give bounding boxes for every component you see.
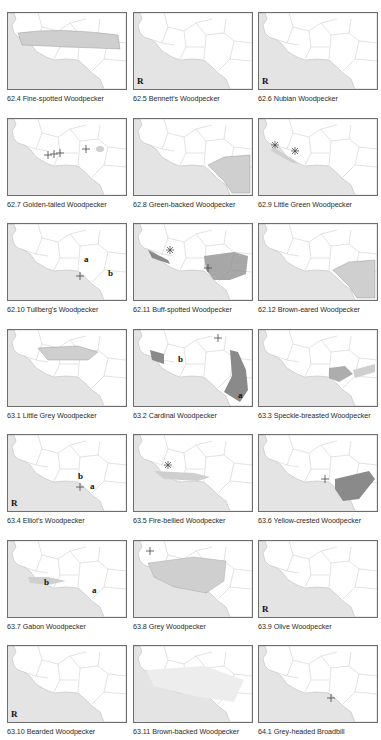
range-map — [7, 329, 127, 407]
range-map-panel: ba63.2 Cardinal Woodpecker — [133, 329, 253, 431]
species-caption: 63.3 Speckle-breasted Woodpecker — [258, 411, 371, 420]
resident-marker: R — [137, 76, 144, 86]
subspecies-label: a — [238, 390, 243, 400]
range-map-panel: R63.9 Olive Woodpecker — [258, 540, 378, 642]
range-map-panel: 63.11 Brown-backed Woodpecker — [133, 645, 253, 740]
range-map-panel: R63.10 Bearded Woodpecker — [7, 645, 127, 740]
range-map-panel: R62.5 Bennett's Woodpecker — [133, 12, 253, 114]
species-caption: 62.8 Green-backed Woodpecker — [133, 200, 235, 209]
range-map-panel: 63.6 Yellow-crested Woodpecker — [258, 434, 378, 536]
resident-marker: R — [11, 498, 18, 508]
range-map — [133, 434, 253, 512]
species-caption: 63.4 Elliot's Woodpecker — [7, 516, 85, 525]
species-caption: 62.5 Bennett's Woodpecker — [133, 94, 220, 103]
range-map-panel: 63.1 Little Grey Woodpecker — [7, 329, 127, 431]
species-caption: 64.1 Grey-headed Broadbill — [258, 727, 345, 736]
species-caption: 62.4 Fine-spotted Woodpecker — [7, 94, 104, 103]
species-caption: 63.2 Cardinal Woodpecker — [133, 411, 217, 420]
range-map — [7, 118, 127, 196]
range-map-panel: ba63.7 Gabon Woodpecker — [7, 540, 127, 642]
range-map — [133, 540, 253, 618]
range-map-panel: 62.4 Fine-spotted Woodpecker — [7, 12, 127, 114]
range-map: R — [133, 12, 253, 90]
range-map — [7, 12, 127, 90]
range-map: R — [258, 540, 378, 618]
range-map: R — [7, 645, 127, 723]
range-map — [258, 329, 378, 407]
range-map-panel: 62.9 Little Green Woodpecker — [258, 118, 378, 220]
resident-marker: R — [262, 76, 269, 86]
range-map — [258, 434, 378, 512]
species-caption: 62.12 Brown-eared Woodpecker — [258, 305, 360, 314]
range-map — [258, 118, 378, 196]
range-map: baR — [7, 434, 127, 512]
range-map-panel: R62.6 Nubian Woodpecker — [258, 12, 378, 114]
range-map — [258, 223, 378, 301]
species-caption: 62.11 Buff-spotted Woodpecker — [133, 305, 232, 314]
range-map — [133, 645, 253, 723]
range-map-panel: 63.5 Fire-bellied Woodpecker — [133, 434, 253, 536]
range-map-panel: 63.3 Speckle-breasted Woodpecker — [258, 329, 378, 431]
subspecies-label: b — [78, 471, 83, 481]
species-caption: 63.6 Yellow-crested Woodpecker — [258, 516, 361, 525]
range-map-panel: ab62.10 Tullberg's Woodpecker — [7, 223, 127, 325]
range-map-panel: 63.8 Grey Woodpecker — [133, 540, 253, 642]
range-map: ba — [133, 329, 253, 407]
range-map — [133, 118, 253, 196]
range-map: ba — [7, 540, 127, 618]
species-caption: 62.7 Golden-tailed Woodpecker — [7, 200, 107, 209]
range-map-panel: baR63.4 Elliot's Woodpecker — [7, 434, 127, 536]
species-caption: 63.10 Bearded Woodpecker — [7, 727, 95, 736]
species-caption: 63.7 Gabon Woodpecker — [7, 622, 86, 631]
range-map-panel: 62.8 Green-backed Woodpecker — [133, 118, 253, 220]
range-map: R — [258, 12, 378, 90]
range-map — [258, 645, 378, 723]
species-caption: 63.1 Little Grey Woodpecker — [7, 411, 97, 420]
range-map-panel: 62.11 Buff-spotted Woodpecker — [133, 223, 253, 325]
species-caption: 62.10 Tullberg's Woodpecker — [7, 305, 98, 314]
subspecies-label: a — [84, 254, 89, 264]
species-caption: 63.8 Grey Woodpecker — [133, 622, 206, 631]
species-caption: 63.9 Olive Woodpecker — [258, 622, 332, 631]
species-caption: 62.6 Nubian Woodpecker — [258, 94, 338, 103]
subspecies-label: b — [44, 577, 49, 587]
resident-marker: R — [262, 604, 269, 614]
subspecies-label: a — [92, 585, 97, 595]
species-caption: 63.11 Brown-backed Woodpecker — [133, 727, 239, 736]
range-map-panel: 64.1 Grey-headed Broadbill — [258, 645, 378, 740]
range-map: ab — [7, 223, 127, 301]
subspecies-label: b — [178, 354, 183, 364]
range-map-panel: 62.7 Golden-tailed Woodpecker — [7, 118, 127, 220]
subspecies-label: b — [108, 268, 113, 278]
species-caption: 63.5 Fire-bellied Woodpecker — [133, 516, 225, 525]
species-caption: 62.9 Little Green Woodpecker — [258, 200, 352, 209]
range-map — [133, 223, 253, 301]
subspecies-label: a — [90, 481, 95, 491]
resident-marker: R — [11, 709, 18, 719]
range-map-panel: 62.12 Brown-eared Woodpecker — [258, 223, 378, 325]
